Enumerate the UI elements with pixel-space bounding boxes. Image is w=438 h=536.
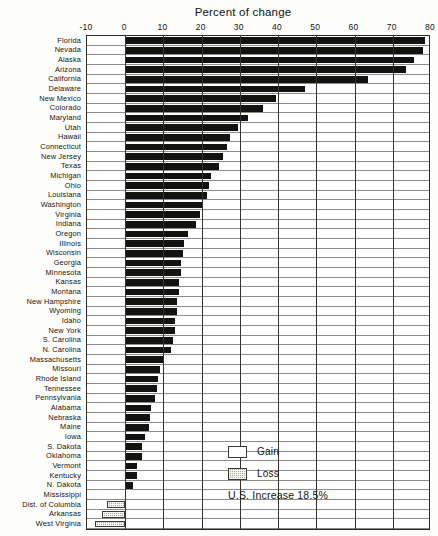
bar-row	[87, 413, 429, 423]
x-tick-label-20: 20	[196, 22, 206, 32]
category-label-louisiana: Louisiana	[48, 190, 81, 200]
bar-massachusetts	[125, 356, 162, 363]
bar-montana	[125, 289, 179, 296]
category-label-iowa: Iowa	[65, 432, 81, 442]
bar-row	[87, 384, 429, 394]
bar-row	[87, 142, 429, 152]
bar-maryland	[125, 115, 247, 122]
bar-maine	[125, 424, 148, 431]
bar-arizona	[125, 66, 406, 73]
category-label-new-mexico: New Mexico	[39, 94, 81, 104]
bar-row	[87, 171, 429, 181]
legend-label-loss: Loss	[257, 468, 279, 479]
category-label-maine: Maine	[60, 422, 81, 432]
bar-row	[87, 326, 429, 336]
x-tick-label-40: 40	[272, 22, 282, 32]
bar-row	[87, 374, 429, 384]
bar-row	[87, 55, 429, 65]
row-separator	[87, 528, 429, 529]
category-label-new-jersey: New Jersey	[41, 152, 81, 162]
category-label-maryland: Maryland	[49, 113, 81, 123]
bar-row	[87, 133, 429, 143]
x-tick-label-30: 30	[234, 22, 244, 32]
bar-new-hampshire	[125, 298, 177, 305]
bar-california	[125, 76, 368, 83]
bar-pennsylvania	[125, 395, 155, 402]
bar-kentucky	[125, 472, 137, 479]
bar-michigan	[125, 173, 211, 180]
category-label-alaska: Alaska	[58, 55, 81, 65]
bar-row	[87, 500, 429, 510]
bar-oregon	[125, 231, 188, 238]
category-labels: FloridaNevadaAlaskaArizonaCaliforniaDela…	[0, 35, 84, 530]
category-label-arizona: Arizona	[55, 65, 81, 75]
bar-row	[87, 84, 429, 94]
bar-s-dakota	[125, 443, 141, 450]
category-label-hawaii: Hawaii	[58, 132, 81, 142]
category-label-massachusetts: Massachusetts	[30, 355, 81, 365]
category-label-s-carolina: S. Carolina	[43, 335, 81, 345]
bar-colorado	[125, 105, 263, 112]
chart-title: Percent of change	[0, 6, 438, 18]
bar-connecticut	[125, 144, 226, 151]
category-label-california: California	[48, 74, 81, 84]
category-label-utah: Utah	[65, 123, 81, 133]
bar-row	[87, 239, 429, 249]
category-label-s-dakota: S. Dakota	[47, 442, 81, 452]
category-label-illinois: Illinois	[59, 239, 81, 249]
category-label-rhode-island: Rhode Island	[36, 374, 81, 384]
category-label-n-dakota: N. Dakota	[47, 480, 81, 490]
chart-legend: Gain Loss U.S. Increase 18.5%	[228, 445, 408, 501]
category-label-oklahoma: Oklahoma	[46, 451, 81, 461]
bar-utah	[125, 124, 238, 131]
category-label-kentucky: Kentucky	[49, 471, 81, 481]
category-label-nevada: Nevada	[55, 45, 81, 55]
bar-n-dakota	[125, 482, 133, 489]
category-label-virginia: Virginia	[55, 210, 81, 220]
bar-row	[87, 94, 429, 104]
bar-row	[87, 65, 429, 75]
bar-oklahoma	[125, 453, 141, 460]
bar-nevada	[125, 47, 423, 54]
bar-ohio	[125, 182, 209, 189]
x-tick-label-70: 70	[387, 22, 397, 32]
category-label-tennessee: Tennessee	[44, 384, 81, 394]
category-label-oregon: Oregon	[55, 229, 81, 239]
bar-row	[87, 278, 429, 288]
bar-row	[87, 423, 429, 433]
bar-row	[87, 519, 429, 529]
category-label-delaware: Delaware	[49, 84, 81, 94]
category-label-indiana: Indiana	[56, 219, 81, 229]
bar-row	[87, 316, 429, 326]
bar-new-york	[125, 327, 175, 334]
category-label-colorado: Colorado	[50, 103, 81, 113]
bar-row	[87, 355, 429, 365]
bar-tennessee	[125, 385, 157, 392]
bar-row	[87, 510, 429, 520]
category-label-connecticut: Connecticut	[40, 142, 81, 152]
bar-row	[87, 162, 429, 172]
bar-florida	[125, 37, 425, 44]
bar-georgia	[125, 260, 180, 267]
category-label-washington: Washington	[41, 200, 81, 210]
bar-row	[87, 336, 429, 346]
bar-row	[87, 220, 429, 230]
bar-rhode-island	[125, 376, 157, 383]
category-label-west-virginia: West Virginia	[36, 519, 81, 529]
bar-row	[87, 287, 429, 297]
gridline-20	[202, 36, 203, 529]
bar-new-jersey	[125, 153, 222, 160]
bar-row	[87, 345, 429, 355]
bar-chart: Percent of change -1001020304050607080 F…	[0, 0, 438, 536]
bar-iowa	[125, 434, 145, 441]
category-label-wisconsin: Wisconsin	[46, 248, 81, 258]
category-label-arkansas: Arkansas	[49, 509, 81, 519]
bar-row	[87, 210, 429, 220]
x-tick-label-10: 10	[157, 22, 167, 32]
category-label-nebraska: Nebraska	[48, 413, 81, 423]
bar-nebraska	[125, 414, 150, 421]
category-label-montana: Montana	[51, 287, 81, 297]
bar-row	[87, 46, 429, 56]
legend-swatch-loss	[228, 468, 247, 480]
bar-row	[87, 152, 429, 162]
